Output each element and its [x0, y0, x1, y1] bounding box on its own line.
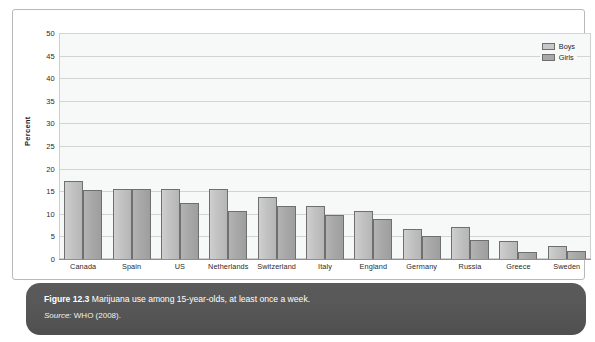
x-axis-label-russia: Russia — [446, 261, 494, 275]
y-tick-label-50: 50 — [21, 29, 55, 38]
bar-group-germany — [398, 33, 446, 259]
x-axis-label-germany: Germany — [398, 261, 446, 275]
x-axis-label-spain: Spain — [107, 261, 155, 275]
legend-label-boys: Boys — [559, 42, 575, 51]
y-tick-label-15: 15 — [21, 187, 55, 196]
x-axis-label-netherlands: Netherlands — [204, 261, 252, 275]
plot-wrap: Boys Girls — [59, 33, 591, 259]
bar-group-sweden — [543, 33, 591, 259]
bar-russia-girls — [470, 240, 489, 259]
legend-entry-girls: Girls — [542, 53, 575, 62]
bar-canada-boys — [64, 181, 83, 259]
y-tick-label-40: 40 — [21, 74, 55, 83]
x-axis-label-sweden: Sweden — [543, 261, 591, 275]
bar-russia-boys — [451, 227, 470, 259]
bar-group-russia — [446, 33, 494, 259]
x-axis-label-us: US — [156, 261, 204, 275]
bar-group-greece — [494, 33, 542, 259]
bar-canada-girls — [83, 190, 102, 259]
bar-group-italy — [301, 33, 349, 259]
y-tick-label-20: 20 — [21, 164, 55, 173]
legend-swatch-boys-icon — [542, 43, 555, 50]
bar-group-switzerland — [252, 33, 300, 259]
bar-italy-boys — [306, 206, 325, 259]
legend-label-girls: Girls — [559, 53, 574, 62]
bar-italy-girls — [325, 215, 344, 259]
x-axis-label-canada: Canada — [59, 261, 107, 275]
bar-switzerland-boys — [258, 197, 277, 259]
bar-greece-boys — [499, 241, 518, 259]
y-tick-label-10: 10 — [21, 209, 55, 218]
caption-source-line: Source: WHO (2008). — [44, 309, 586, 323]
source-text: WHO (2008). — [74, 311, 121, 320]
chart-frame: Percent 50454035302520151050 Boys Girls … — [12, 9, 585, 280]
bar-spain-boys — [113, 189, 132, 259]
bar-us-boys — [161, 189, 180, 259]
bar-group-canada — [59, 33, 107, 259]
y-tick-label-5: 5 — [21, 232, 55, 241]
y-tick-label-0: 0 — [21, 255, 55, 264]
figure-caption-text: Marijuana use among 15-year-olds, at lea… — [92, 294, 310, 304]
y-axis-ticks: 50454035302520151050 — [17, 33, 55, 259]
bar-netherlands-boys — [209, 189, 228, 260]
y-tick-label-30: 30 — [21, 119, 55, 128]
bar-sweden-boys — [548, 246, 567, 259]
x-axis-label-switzerland: Switzerland — [252, 261, 300, 275]
legend-entry-boys: Boys — [542, 42, 575, 51]
bar-switzerland-girls — [277, 206, 296, 259]
bar-group-england — [349, 33, 397, 259]
bar-us-girls — [180, 203, 199, 260]
bar-england-girls — [373, 219, 392, 259]
figure-number: Figure 12.3 — [44, 294, 89, 304]
bar-spain-girls — [132, 189, 151, 259]
y-tick-label-45: 45 — [21, 51, 55, 60]
y-tick-label-25: 25 — [21, 142, 55, 151]
bar-england-boys — [354, 211, 373, 259]
bar-group-us — [156, 33, 204, 259]
x-axis-labels: CanadaSpainUSNetherlandsSwitzerlandItaly… — [59, 261, 591, 275]
bars-layer — [59, 33, 591, 259]
caption-primary-line: Figure 12.3 Marijuana use among 15-year-… — [44, 292, 586, 306]
bar-sweden-girls — [567, 251, 586, 259]
x-axis-label-england: England — [349, 261, 397, 275]
figure-container: Percent 50454035302520151050 Boys Girls … — [0, 0, 595, 342]
bar-greece-girls — [518, 252, 537, 259]
bar-group-netherlands — [204, 33, 252, 259]
bar-germany-boys — [403, 229, 422, 259]
figure-caption: Figure 12.3 Marijuana use among 15-year-… — [26, 283, 586, 335]
legend-swatch-girls-icon — [542, 54, 555, 61]
bar-group-spain — [107, 33, 155, 259]
gridline-0 — [59, 259, 591, 260]
x-axis-label-greece: Greece — [494, 261, 542, 275]
x-axis-label-italy: Italy — [301, 261, 349, 275]
bar-netherlands-girls — [228, 211, 247, 259]
legend: Boys Girls — [540, 41, 577, 63]
source-label: Source: — [44, 311, 72, 320]
y-tick-label-35: 35 — [21, 96, 55, 105]
bar-germany-girls — [422, 236, 441, 259]
